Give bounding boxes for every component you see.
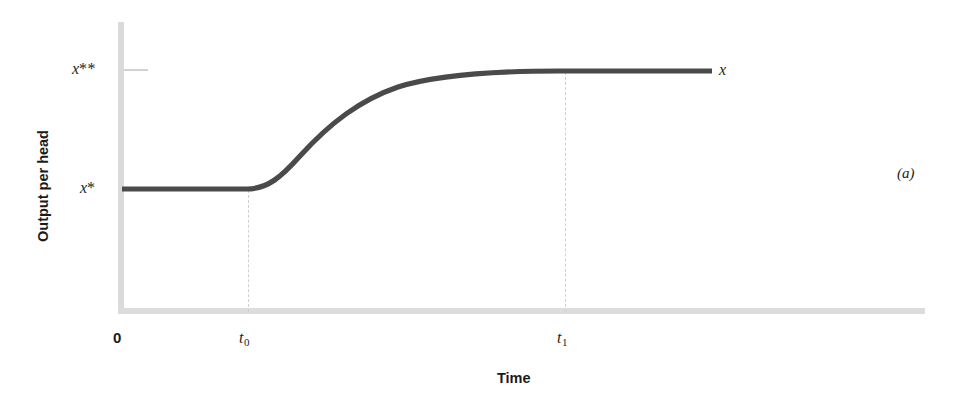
y-tick-label-x-star: x* [80,180,96,196]
y-tick-mark-x-double-star [124,69,148,71]
y-axis-line [118,22,124,314]
dashed-guide-t0 [248,190,249,312]
y-axis-title: Output per head [36,130,51,242]
output-per-head-curve [122,71,712,189]
curve-series-label: x [719,62,726,78]
x-tick-label-t1: t1 [557,330,567,348]
dashed-guide-t1 [565,72,566,312]
origin-label: 0 [113,330,121,345]
x-tick-label-t0: t0 [239,330,249,348]
y-tick-label-x-double-star: x** [72,61,96,77]
curve-layer [0,0,970,420]
x-axis-title: Time [497,371,531,386]
figure-panel-a: x** x* 0 t0 t1 x (a) Time Output per hea… [0,0,970,420]
panel-label: (a) [897,166,915,181]
x-axis-line [118,308,925,314]
